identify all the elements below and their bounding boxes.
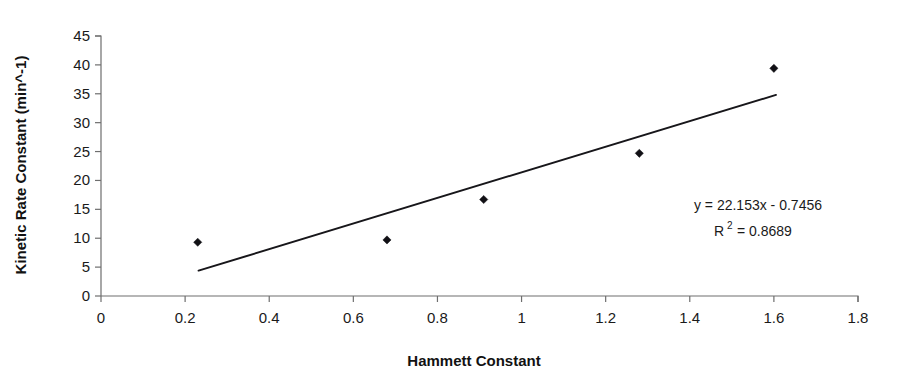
x-tick-label: 1: [517, 309, 525, 326]
x-tick-label: 0.6: [343, 309, 364, 326]
x-tick-label: 0: [97, 309, 105, 326]
y-tick-label: 40: [73, 56, 90, 73]
r-squared-exponent: 2: [727, 220, 733, 231]
trendline-equation-label: y = 22.153x - 0.7456: [694, 197, 822, 213]
r-squared-value: = 0.8689: [737, 223, 792, 239]
y-tick-label: 0: [82, 287, 90, 304]
y-tick-label: 5: [82, 258, 90, 275]
y-tick-label: 20: [73, 171, 90, 188]
x-tick-label: 1.8: [848, 309, 869, 326]
x-tick-label: 1.6: [763, 309, 784, 326]
x-tick-label: 1.4: [679, 309, 700, 326]
y-axis-title: Kinetic Rate Constant (min^-1): [12, 56, 29, 275]
x-axis-title: Hammett Constant: [407, 352, 540, 369]
y-tick-label: 30: [73, 114, 90, 131]
r-squared-prefix: R: [714, 223, 724, 239]
y-tick-label: 10: [73, 229, 90, 246]
y-tick-label: 25: [73, 143, 90, 160]
x-tick-label: 0.4: [259, 309, 280, 326]
y-tick-label: 35: [73, 85, 90, 102]
y-tick-label: 15: [73, 200, 90, 217]
x-tick-label: 0.2: [175, 309, 196, 326]
x-tick-label: 0.8: [427, 309, 448, 326]
scatter-chart: 051015202530354045 00.20.40.60.811.21.41…: [0, 0, 910, 380]
chart-canvas: 051015202530354045 00.20.40.60.811.21.41…: [0, 0, 910, 380]
y-tick-label: 45: [73, 27, 90, 44]
x-tick-label: 1.2: [595, 309, 616, 326]
